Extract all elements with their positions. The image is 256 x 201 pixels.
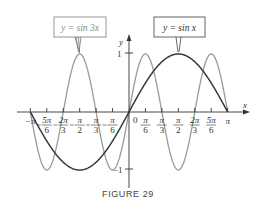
x-tick-label: 2 bbox=[77, 125, 82, 135]
sine-graph-figure: x y 1 −1 −π5π62π3π2π3π6π6π3π22π35π6π 0 y… bbox=[0, 0, 256, 201]
x-tick-label: π bbox=[225, 116, 230, 126]
y-tick-label-1: 1 bbox=[117, 49, 122, 59]
x-tick-label: 5π bbox=[42, 115, 52, 125]
x-axis-label: x bbox=[242, 100, 247, 110]
x-tick-label: −π bbox=[25, 116, 36, 126]
x-tick-label: π bbox=[176, 115, 181, 125]
figure-caption: FIGURE 29 bbox=[102, 189, 154, 199]
x-tick-label: 2π bbox=[59, 115, 69, 125]
x-tick-label: 3 bbox=[160, 125, 165, 135]
callout-sin-3x: y = sin 3x bbox=[54, 17, 106, 53]
x-tick-label: 3 bbox=[61, 125, 66, 135]
callout-sin-3x-label: y = sin 3x bbox=[60, 23, 100, 33]
y-tick-label-neg1: −1 bbox=[113, 165, 123, 175]
x-tick-label: 2 bbox=[176, 125, 181, 135]
origin-label: 0 bbox=[133, 115, 138, 125]
x-tick-label: 3 bbox=[94, 125, 99, 135]
callout-sin-x-label: y = sin x bbox=[162, 23, 197, 33]
x-tick-label: 2π bbox=[190, 115, 200, 125]
x-tick-label: 6 bbox=[143, 125, 148, 135]
x-tick-label: π bbox=[94, 115, 99, 125]
callout-sin-x: y = sin x bbox=[154, 17, 205, 52]
x-tick-label: π bbox=[160, 115, 165, 125]
x-tick-label: 6 bbox=[110, 125, 115, 135]
y-axis-label: y bbox=[118, 37, 123, 47]
x-tick-label: π bbox=[77, 115, 82, 125]
x-tick-label: 6 bbox=[45, 125, 50, 135]
x-tick-label: π bbox=[110, 115, 115, 125]
x-tick-label: 6 bbox=[209, 125, 214, 135]
x-tick-label: π bbox=[143, 115, 148, 125]
x-tick-label: 3 bbox=[193, 125, 198, 135]
x-tick-label: 5π bbox=[207, 115, 217, 125]
